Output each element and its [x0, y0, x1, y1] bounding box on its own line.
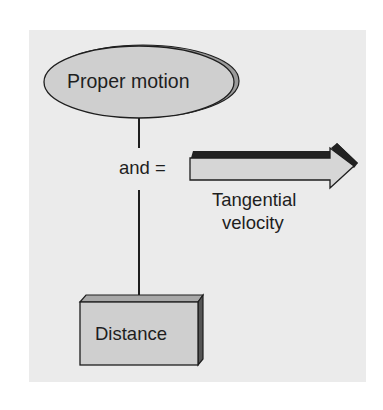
- connector-label: and =: [119, 159, 166, 178]
- distance-label: Distance: [95, 325, 167, 344]
- diagram-graphics: [0, 0, 383, 410]
- tangential-velocity-label-line1: Tangential: [212, 191, 296, 210]
- tangential-velocity-arrow: [190, 143, 358, 188]
- proper-motion-label: Proper motion: [67, 72, 189, 92]
- tangential-velocity-label-line2: velocity: [222, 214, 284, 233]
